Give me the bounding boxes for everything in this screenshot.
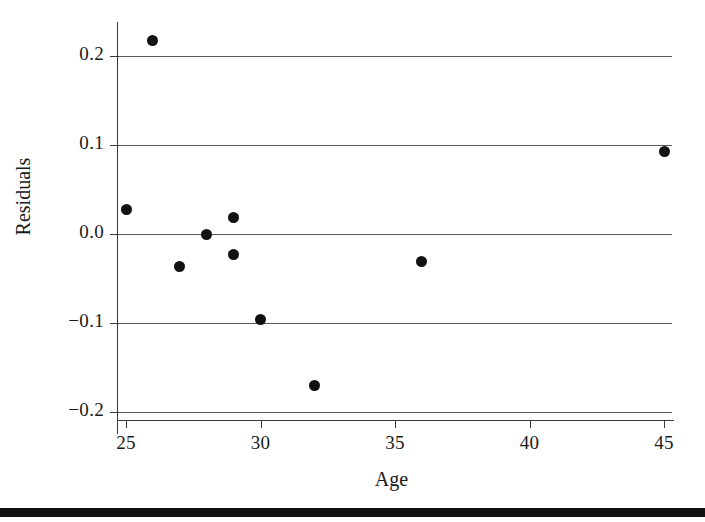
y-tick-label: 0.1 — [34, 132, 104, 154]
x-axis-title: Age — [0, 468, 705, 491]
y-tick — [110, 412, 119, 413]
x-tick — [261, 420, 262, 428]
data-point — [147, 35, 158, 46]
x-tick-label: 25 — [96, 432, 156, 454]
x-tick-label: 35 — [365, 432, 425, 454]
y-tick — [110, 145, 119, 146]
gridline — [117, 56, 672, 57]
data-point — [255, 314, 266, 325]
gridline — [117, 412, 672, 413]
y-tick-label: −0.2 — [34, 399, 104, 421]
x-axis-title-text: Age — [375, 468, 408, 491]
data-point — [174, 261, 185, 272]
gridline — [117, 145, 672, 146]
residual-plot-figure: 2530354045 −0.2−0.10.00.10.2 Age Residua… — [0, 0, 705, 522]
footer-bar — [0, 508, 705, 517]
data-point — [228, 249, 239, 260]
x-tick-label: 30 — [231, 432, 291, 454]
data-point — [201, 229, 212, 240]
plot-area — [117, 22, 672, 434]
x-tick — [664, 420, 665, 428]
data-point — [416, 256, 427, 267]
y-tick — [110, 323, 119, 324]
data-point — [121, 204, 132, 215]
y-tick — [110, 56, 119, 57]
x-tick — [395, 420, 396, 428]
x-tick-label: 40 — [500, 432, 560, 454]
gridline — [117, 323, 672, 324]
data-point — [309, 380, 320, 391]
y-tick — [110, 234, 119, 235]
y-axis-line — [117, 22, 118, 434]
y-axis-tick-labels: −0.2−0.10.00.10.2 — [32, 0, 104, 522]
data-point — [659, 146, 670, 157]
y-tick-label: −0.1 — [34, 310, 104, 332]
x-tick-label: 45 — [634, 432, 694, 454]
y-tick-label: 0.2 — [34, 43, 104, 65]
x-tick — [126, 420, 127, 428]
y-axis-title: Residuals — [12, 127, 35, 267]
x-tick — [530, 420, 531, 428]
data-point — [228, 212, 239, 223]
y-tick-label: 0.0 — [34, 221, 104, 243]
